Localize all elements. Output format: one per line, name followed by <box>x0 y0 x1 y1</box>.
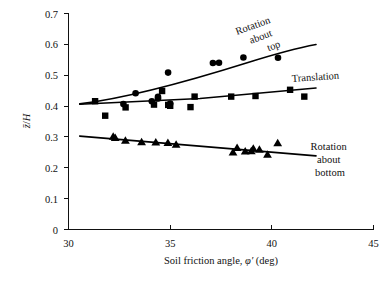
data-point <box>187 104 193 110</box>
data-point <box>191 93 197 99</box>
data-point <box>151 101 157 107</box>
y-tick-label-0.1: 0.1 <box>45 194 58 205</box>
y-tick-label-0.5: 0.5 <box>45 70 58 81</box>
data-point <box>92 98 98 104</box>
y-tick-label-0.6: 0.6 <box>45 39 58 50</box>
y-tick-label-0.7: 0.7 <box>45 9 58 20</box>
data-point <box>122 104 128 110</box>
x-axis-title-suffix: (deg) <box>253 255 278 267</box>
data-point <box>165 69 172 76</box>
data-point <box>210 60 217 67</box>
x-tick-label-30: 30 <box>63 238 74 249</box>
chart-figure: 0.7 0.6 0.5 0.4 0.3 0.2 0.1 0 30 35 40 4… <box>0 0 389 282</box>
data-point <box>102 113 108 119</box>
y-tick-label-0.4: 0.4 <box>45 101 59 112</box>
data-point <box>155 95 162 102</box>
y-tick-label-0: 0 <box>53 225 58 236</box>
y-tick-label-0.2: 0.2 <box>45 163 58 174</box>
y-tick-label-0.3: 0.3 <box>45 132 58 143</box>
data-point <box>301 93 307 99</box>
svg-text:z̄/H: z̄/H <box>21 112 32 129</box>
data-point <box>240 54 247 61</box>
x-tick-label-45: 45 <box>368 238 379 249</box>
annotation-rotation-bottom-line2: about <box>317 154 340 165</box>
x-tick-label-35: 35 <box>165 238 176 249</box>
data-point <box>252 93 258 99</box>
data-point <box>159 88 165 94</box>
data-point <box>132 90 139 97</box>
annotation-rotation-bottom-line3: bottom <box>315 167 345 178</box>
chart-canvas: 0.7 0.6 0.5 0.4 0.3 0.2 0.1 0 30 35 40 4… <box>0 0 389 282</box>
y-axis-title-denominator: H <box>21 112 32 122</box>
data-point <box>287 87 293 93</box>
y-axis-title: z̄/H <box>21 112 32 129</box>
data-point <box>167 103 173 109</box>
data-point <box>216 59 223 66</box>
annotation-rotation-bottom-line1: Rotation <box>311 141 348 152</box>
x-tick-label-40: 40 <box>267 238 278 249</box>
x-axis-title: Soil friction angle, φ′ (deg) <box>164 255 278 267</box>
data-point <box>228 93 234 99</box>
data-point <box>275 55 282 62</box>
x-axis-title-prefix: Soil friction angle, <box>164 255 245 266</box>
